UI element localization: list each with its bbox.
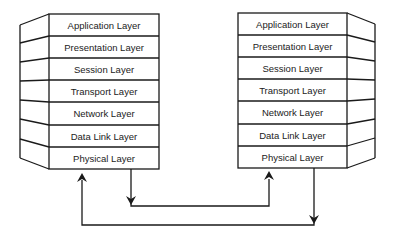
right-physical-layer: Physical Layer [238,146,347,168]
right-data-link-layer: Data Link Layer [238,124,347,146]
right-network-layer: Network Layer [238,101,347,124]
left-transport-layer: Transport Layer [49,80,159,102]
right-osi-stack: Application Layer Presentation Layer Ses… [238,13,347,168]
left-presentation-layer: Presentation Layer [49,36,159,58]
left-physical-layer: Physical Layer [49,147,159,169]
left-network-layer: Network Layer [49,102,159,125]
connection-right-to-left [77,168,319,225]
left-data-link-layer: Data Link Layer [49,125,159,147]
right-presentation-layer: Presentation Layer [238,35,347,57]
right-application-layer: Application Layer [238,13,347,35]
left-osi-stack: Application Layer Presentation Layer Ses… [49,14,159,169]
right-session-layer: Session Layer [238,57,347,79]
right-transport-layer: Transport Layer [238,79,347,101]
left-session-layer: Session Layer [49,58,159,80]
connection-left-to-right [126,169,274,206]
left-application-layer: Application Layer [49,14,159,36]
